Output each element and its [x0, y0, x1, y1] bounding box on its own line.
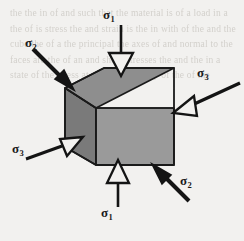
- label-sigma1-top: σ1: [103, 8, 114, 21]
- stress-cube-figure: the the in of and such that the material…: [0, 0, 244, 241]
- label-sigma3-right: σ3: [197, 66, 208, 79]
- label-sigma2-topleft-subscript: 2: [32, 42, 36, 52]
- sigma3-right-arrow-shaft: [192, 83, 240, 105]
- label-sigma1-bottom: σ1: [101, 206, 112, 219]
- stress-cube-svg: [0, 0, 244, 241]
- label-sigma2-topleft: σ2: [25, 36, 36, 49]
- sigma1-bottom-arrow: [107, 160, 129, 207]
- cube-group: [65, 68, 174, 165]
- label-sigma1-bottom-subscript: 1: [108, 212, 112, 222]
- sigma3-bottomleft-arrow: [26, 137, 83, 159]
- sigma3-right-arrow: [173, 83, 240, 116]
- label-sigma1-top-subscript: 1: [110, 14, 114, 24]
- sigma3-bottomleft-arrow-shaft: [26, 146, 62, 159]
- label-sigma3-bottomleft: σ3: [12, 142, 23, 155]
- sigma3-right-arrow-head: [173, 96, 197, 116]
- sigma2-topleft-arrow: [33, 49, 74, 90]
- label-sigma3-right-subscript: 3: [204, 72, 208, 82]
- label-sigma2-bottomright: σ2: [180, 174, 191, 187]
- label-sigma2-bottomright-subscript: 2: [187, 180, 191, 190]
- cube-front-face: [96, 108, 174, 165]
- label-sigma3-bottomleft-subscript: 3: [19, 148, 23, 158]
